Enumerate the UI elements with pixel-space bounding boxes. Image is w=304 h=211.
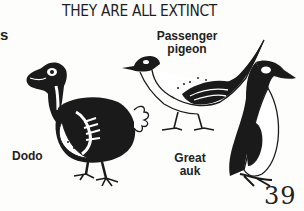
great-auk-label: Great auk [170, 152, 210, 178]
book-page: THEY ARE ALL EXTINCT s Dodo Passenger pi… [0, 0, 304, 211]
great-auk-label-line2: auk [170, 165, 210, 178]
great-auk-illustration [204, 58, 304, 188]
dodo-label: Dodo [12, 150, 43, 163]
page-title: THEY ARE ALL EXTINCT [62, 2, 217, 20]
page-number: 39 [264, 182, 297, 210]
cut-off-text-fragment: s [0, 26, 8, 43]
